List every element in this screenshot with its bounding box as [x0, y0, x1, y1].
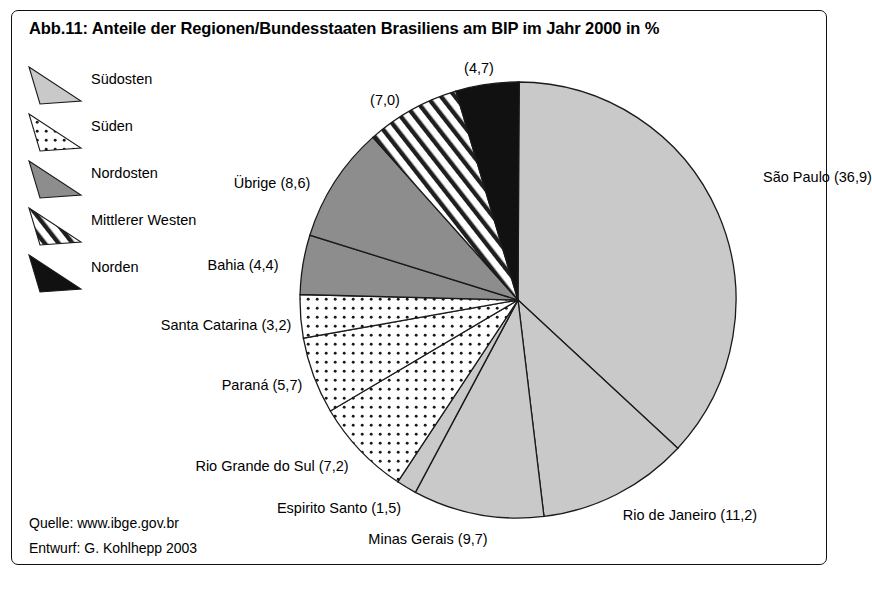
legend-item: Süden [26, 109, 236, 156]
slice-label: (7,0) [370, 92, 400, 108]
legend-item: Nordosten [26, 156, 236, 203]
slice-label: Paraná (5,7) [222, 377, 303, 393]
legend-label: Mittlerer Westen [91, 212, 196, 228]
chart-legend: SüdostenSüdenNordostenMittlerer WestenNo… [26, 62, 236, 297]
legend-wedge [29, 114, 81, 151]
legend-wedge [29, 67, 81, 104]
source-block: Quelle: www.ibge.gov.br Entwurf: G. Kohl… [29, 511, 197, 561]
legend-wedge [29, 161, 81, 198]
slice-label: (4,7) [464, 60, 494, 76]
legend-label: Norden [91, 259, 139, 275]
legend-wedge [29, 255, 81, 292]
legend-item: Mittlerer Westen [26, 203, 236, 250]
slice-label: Rio Grande do Sul (7,2) [195, 458, 348, 474]
legend-item: Südosten [26, 62, 236, 109]
slice-label: Minas Gerais (9,7) [368, 531, 487, 547]
legend-item: Norden [26, 250, 236, 297]
author-line: Entwurf: G. Kohlhepp 2003 [29, 536, 197, 561]
legend-swatch-solid-mid [26, 158, 84, 200]
slice-label: Bahia (4,4) [208, 257, 279, 273]
slice-label: Übrige (8,6) [234, 175, 311, 191]
slice-label: Espirito Santo (1,5) [277, 500, 401, 516]
source-line: Quelle: www.ibge.gov.br [29, 511, 197, 536]
slice-label: Rio de Janeiro (11,2) [623, 507, 757, 523]
legend-label: Nordosten [91, 165, 158, 181]
legend-wedge [29, 208, 81, 245]
legend-label: Süden [91, 118, 133, 134]
legend-swatch-solid-light [26, 64, 84, 106]
figure-title: Abb.11: Anteile der Regionen/Bundesstaat… [29, 19, 659, 38]
legend-swatch-hatched [26, 205, 84, 247]
slice-label: Santa Catarina (3,2) [161, 317, 292, 333]
legend-swatch-dotted [26, 111, 84, 153]
legend-label: Südosten [91, 71, 152, 87]
legend-swatch-solid-black [26, 252, 84, 294]
slice-label: São Paulo (36,9) [763, 169, 872, 185]
